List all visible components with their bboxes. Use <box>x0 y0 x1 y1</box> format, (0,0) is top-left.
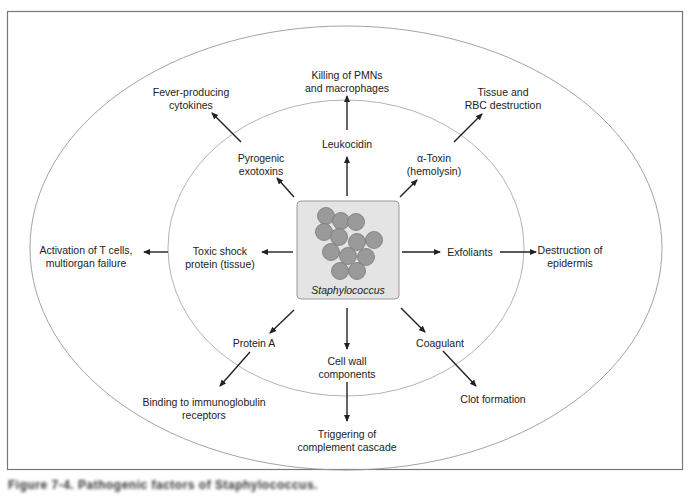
arrow-to-coagulant <box>401 308 425 332</box>
factor-alpha-toxin: α-Toxin (hemolysin) <box>407 152 461 177</box>
staphylococcus-label: Staphylococcus <box>311 284 385 296</box>
arrow-to-binding <box>220 352 250 386</box>
effect-killing-of-pmns: Killing of PMNs and macrophages <box>305 69 389 94</box>
factor-coagulant: Coagulant <box>416 337 464 350</box>
arrow-to-pyrogenic <box>277 178 294 197</box>
arrow-to-alpha-toxin <box>400 180 417 197</box>
effect-activation-of-t-cells: Activation of T cells, multiorgan failur… <box>40 244 133 269</box>
factor-pyrogenic-exotoxins: Pyrogenic exotoxins <box>238 152 285 177</box>
factor-exfoliants: Exfoliants <box>447 246 493 259</box>
figure-caption: Figure 7-4. Pathogenic factors of Staphy… <box>8 478 318 492</box>
effect-triggering-complement: Triggering of complement cascade <box>297 428 396 453</box>
arrow-to-tissue-rbc <box>454 114 482 142</box>
effect-destruction-of-epidermis: Destruction of epidermis <box>538 244 603 269</box>
factor-leukocidin: Leukocidin <box>322 138 372 151</box>
arrow-to-fever <box>212 113 241 142</box>
effect-tissue-rbc-destruction: Tissue and RBC destruction <box>465 86 541 111</box>
effect-clot-formation: Clot formation <box>460 393 525 406</box>
factor-protein-a: Protein A <box>233 337 276 350</box>
arrow-to-clot <box>443 351 476 386</box>
effect-fever-producing-cytokines: Fever-producing cytokines <box>153 86 229 111</box>
effect-binding-to-immunoglobulin: Binding to immunoglobulin receptors <box>142 396 265 421</box>
factor-toxic-shock-protein: Toxic shock protein (tissue) <box>185 245 254 270</box>
arrow-to-protein-a <box>270 310 294 333</box>
factor-cell-wall-components: Cell wall components <box>318 355 375 380</box>
